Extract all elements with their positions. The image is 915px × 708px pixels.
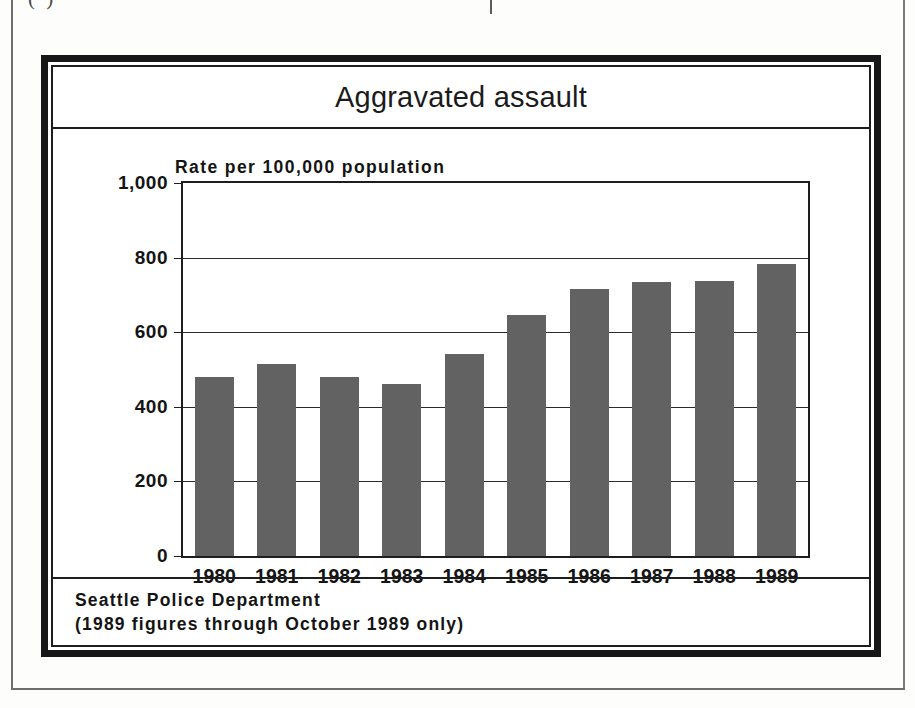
y-axis-caption: Rate per 100,000 population (175, 157, 445, 178)
source-line-note: (1989 figures through October 1989 only) (75, 612, 869, 636)
y-tick-mark-400 (174, 407, 183, 408)
y-tick-mark-600 (174, 332, 183, 333)
y-axis-tick-label: 1,000 (118, 172, 168, 194)
bar-1989 (757, 264, 796, 556)
bar-group-1988: 1988 (683, 183, 746, 556)
page-border-left (11, 0, 13, 690)
page-border-right (903, 0, 905, 690)
bar-group-1987: 1987 (621, 183, 684, 556)
bar-group-1981: 1981 (246, 183, 309, 556)
y-axis-tick-label: 0 (157, 545, 168, 567)
page-crop-caption: ( ) (28, 0, 56, 11)
plot-area: 02004006008001,000 198019811982198319841… (181, 181, 810, 558)
y-tick-mark-1000 (174, 183, 183, 184)
bar-group-1980: 1980 (183, 183, 246, 556)
y-tick-mark-800 (174, 258, 183, 259)
bar-group-1982: 1982 (308, 183, 371, 556)
bar-1985 (507, 315, 546, 556)
chart-title-band: Aggravated assault (53, 67, 869, 129)
bar-group-1984: 1984 (433, 183, 496, 556)
chart-figure-inner-border: Aggravated assault Rate per 100,000 popu… (51, 65, 871, 647)
bar-group-1983: 1983 (371, 183, 434, 556)
bar-group-1986: 1986 (558, 183, 621, 556)
bar-1988 (695, 281, 734, 556)
source-line-primary: Seattle Police Department (75, 588, 869, 612)
bar-1981 (257, 364, 296, 556)
chart-footer: Seattle Police Department (1989 figures … (53, 577, 869, 645)
bar-1987 (632, 282, 671, 556)
plot-region: Rate per 100,000 population 020040060080… (53, 129, 869, 577)
bar-1983 (382, 384, 421, 556)
y-axis-tick-label: 200 (135, 470, 168, 492)
page-border-bottom (11, 688, 905, 690)
y-tick-mark-0 (174, 556, 183, 557)
bars-group: 1980198119821983198419851986198719881989 (183, 183, 808, 556)
chart-figure: Aggravated assault Rate per 100,000 popu… (41, 55, 881, 657)
bar-1986 (570, 289, 609, 556)
bar-1982 (320, 377, 359, 556)
page-crop-rule (490, 0, 492, 14)
bar-1984 (445, 354, 484, 556)
bar-1980 (195, 377, 234, 556)
y-axis-tick-label: 600 (135, 321, 168, 343)
bar-group-1989: 1989 (746, 183, 809, 556)
y-tick-mark-200 (174, 481, 183, 482)
y-axis-tick-label: 400 (135, 396, 168, 418)
chart-title: Aggravated assault (335, 81, 587, 114)
bar-group-1985: 1985 (496, 183, 559, 556)
y-axis-tick-label: 800 (135, 247, 168, 269)
